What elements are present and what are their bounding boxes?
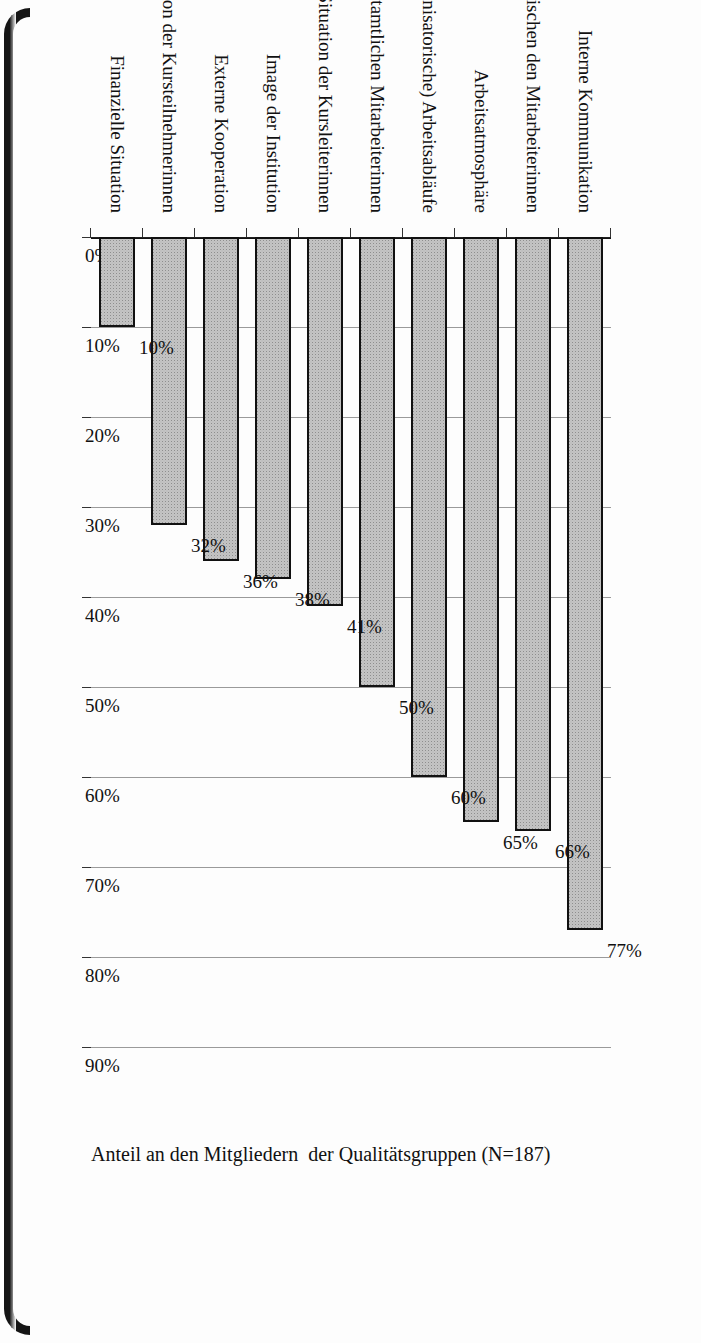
- tick-60%: [82, 777, 91, 778]
- book-gutter-shadow: [0, 0, 16, 1343]
- category-label: Externe Kooperation: [210, 54, 232, 213]
- bar-value-label: 32%: [191, 535, 226, 557]
- tick-label-60%: 60%: [85, 785, 120, 807]
- category-label: Situation der Kursteilnehmerinnen: [158, 0, 180, 213]
- tick-40%: [82, 597, 91, 598]
- tick-label-40%: 40%: [85, 605, 120, 627]
- chart-figure: 0%10%20%30%40%50%60%70%80%90% 77%66%65%6…: [51, 57, 651, 1287]
- category-label: Finanzielle Situation: [106, 55, 128, 213]
- category-tick: [402, 228, 403, 237]
- plot-area: 0%10%20%30%40%50%60%70%80%90% 77%66%65%6…: [91, 237, 611, 1047]
- tick-label-10%: 10%: [85, 335, 120, 357]
- bar: [203, 237, 239, 561]
- category-tick: [142, 228, 143, 237]
- tick-label-90%: 90%: [85, 1055, 120, 1077]
- category-label: Image der Institution: [262, 53, 284, 212]
- tick-20%: [82, 417, 91, 418]
- bar: [515, 237, 551, 831]
- bar-value-label: 38%: [295, 589, 330, 611]
- category-tick: [454, 228, 455, 237]
- bar-value-label: 66%: [555, 841, 590, 863]
- tick-80%: [82, 957, 91, 958]
- gridline-80%: [91, 957, 611, 958]
- bar: [151, 237, 187, 525]
- category-tick: [558, 228, 559, 237]
- bar: [567, 237, 603, 930]
- bar-value-label: 41%: [347, 616, 382, 638]
- book-gutter-mask: [30, 0, 52, 1343]
- category-tick: [298, 228, 299, 237]
- tick-label-70%: 70%: [85, 875, 120, 897]
- tick-label-30%: 30%: [85, 515, 120, 537]
- category-tick: [90, 228, 91, 237]
- bar: [411, 237, 447, 777]
- tick-70%: [82, 867, 91, 868]
- scanned-page: 0%10%20%30%40%50%60%70%80%90% 77%66%65%6…: [0, 0, 701, 1343]
- category-tick: [194, 228, 195, 237]
- category-label: Interne Kommunikation: [574, 29, 596, 212]
- tick-label-50%: 50%: [85, 695, 120, 717]
- tick-30%: [82, 507, 91, 508]
- book-gutter-edge: [4, 8, 38, 1335]
- bar-value-label: 10%: [139, 337, 174, 359]
- tick-90%: [82, 1047, 91, 1048]
- bar: [255, 237, 291, 579]
- bar: [307, 237, 343, 606]
- gridline-70%: [91, 867, 611, 868]
- category-label: (Organisatorische) Arbeitsabläufe: [418, 0, 440, 213]
- gridline-90%: [91, 1047, 611, 1048]
- category-tick: [506, 228, 507, 237]
- category-tick: [350, 228, 351, 237]
- tick-50%: [82, 687, 91, 688]
- bar-value-label: 77%: [607, 940, 642, 962]
- category-label: Zusammenarbeit zwischen den Mitarbeiteri…: [522, 0, 544, 213]
- value-axis-title: Anteil an den Mitgliedern der Qualitätsg…: [91, 1143, 551, 1166]
- bar-value-label: 65%: [503, 832, 538, 854]
- category-tick: [610, 228, 611, 237]
- tick-10%: [82, 327, 91, 328]
- bar: [99, 237, 135, 327]
- category-tick: [246, 228, 247, 237]
- category-label: Situation der Kursleiterinnen: [314, 0, 336, 213]
- rotated-chart-container: 0%10%20%30%40%50%60%70%80%90% 77%66%65%6…: [51, 57, 651, 1287]
- category-label: Arbeitsatmosphäre: [470, 69, 492, 213]
- bar-value-label: 50%: [399, 697, 434, 719]
- bar-value-label: 60%: [451, 787, 486, 809]
- bar-value-label: 36%: [243, 571, 278, 593]
- tick-label-80%: 80%: [85, 965, 120, 987]
- tick-label-20%: 20%: [85, 425, 120, 447]
- bar: [463, 237, 499, 822]
- category-label: Situation der hauptamtlichen Mitarbeiter…: [366, 0, 388, 213]
